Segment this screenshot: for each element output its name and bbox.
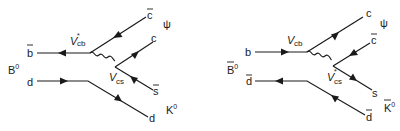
vertex-label-sup: *: [334, 68, 337, 75]
quark-label-d: d: [27, 76, 33, 88]
quark-label-d-bar-out: d: [366, 111, 372, 123]
vertex-label-sub: cb: [77, 39, 86, 48]
quark-label-d-out: d: [149, 112, 155, 124]
vertex-label-sub: cs: [116, 77, 124, 86]
meson-label-psi: ψ: [163, 18, 171, 30]
meson-label-k0bar: K0: [384, 101, 395, 114]
meson-label-psi: ψ: [380, 17, 388, 29]
quark-line-dbar: [255, 81, 365, 115]
w-boson-line: [90, 52, 115, 61]
arrow-icon: [349, 49, 358, 56]
vertex-label-sup: *: [77, 32, 80, 39]
quark-label-d-bar: d: [246, 75, 252, 87]
w-boson-line: [307, 51, 332, 60]
arrow-right-icon: [60, 78, 68, 85]
arrow-icon: [113, 31, 123, 38]
vertex-label-sub: cs: [334, 77, 342, 86]
arrow-left-icon: [58, 50, 66, 57]
meson-label-b0: B0: [8, 63, 19, 76]
meson-label-b0bar: B0: [227, 63, 238, 76]
arrow-icon: [131, 51, 139, 59]
arrow-icon: [331, 32, 339, 41]
meson-label-k0: K0: [166, 103, 177, 116]
feynman-diagrams: b B0 d V * cb V cs c ψ c s K0 d: [0, 0, 400, 131]
quark-label-c: c: [151, 32, 157, 44]
quark-label-c-bar: c: [371, 34, 377, 46]
arrow-left-icon: [275, 78, 283, 85]
quark-label-s-bar: s: [153, 85, 159, 97]
quark-label-c-bar: c: [147, 9, 153, 21]
quark-line-d: [37, 81, 148, 117]
quark-label-b-bar: b: [27, 47, 33, 59]
quark-label-s: s: [372, 87, 378, 99]
arrow-right-icon: [281, 49, 289, 56]
quark-label-c: c: [366, 7, 372, 19]
diagram-b0bar: b B0 d V cb V * cs c ψ c s K0 d: [227, 7, 395, 123]
diagram-b0: b B0 d V * cb V cs c ψ c s K0 d: [8, 9, 177, 124]
vertex-label-sub: cb: [294, 39, 303, 48]
quark-label-b: b: [245, 46, 251, 58]
